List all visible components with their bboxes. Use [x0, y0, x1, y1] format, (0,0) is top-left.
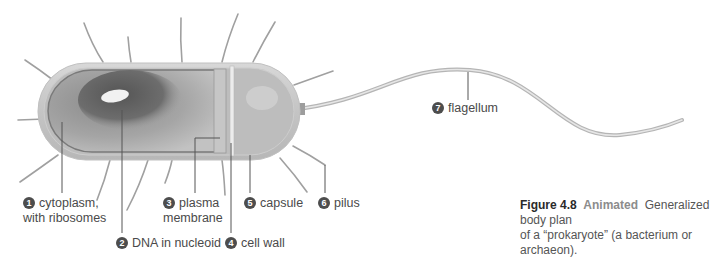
- label-dna-nucleoid: 2DNA in nucleoid: [116, 236, 221, 251]
- label-cell-wall: 4cell wall: [225, 236, 285, 251]
- figure-number: Figure 4.8: [520, 198, 577, 212]
- figure-tag: Animated: [583, 198, 638, 212]
- label-plasma-membrane: 3plasma membrane: [163, 196, 223, 226]
- number-badge: 3: [163, 197, 175, 209]
- label-capsule: 5capsule: [244, 196, 303, 211]
- number-badge: 5: [244, 197, 256, 209]
- number-badge: 4: [225, 237, 237, 249]
- number-badge: 6: [318, 197, 330, 209]
- label-pilus: 6pilus: [318, 196, 360, 211]
- caption-line-2: of a “prokaryote” (a bacterium or archae…: [520, 228, 692, 257]
- nucleoid: [78, 70, 182, 130]
- label-cytoplasm: 1cytoplasm, with ribosomes: [23, 196, 106, 226]
- label-flagellum: 7flagellum: [432, 101, 498, 116]
- number-badge: 1: [23, 197, 35, 209]
- figure-caption: Figure 4.8 Animated Generalized body pla…: [520, 198, 714, 258]
- number-badge: 2: [116, 237, 128, 249]
- number-badge: 7: [432, 102, 444, 114]
